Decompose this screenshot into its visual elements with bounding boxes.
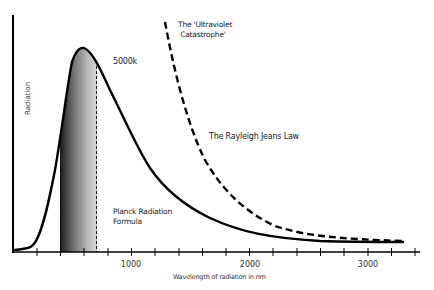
rayleigh-jeans-label: The Rayleigh Jeans Law [209,132,299,142]
y-axis-label: Radiation [24,82,32,115]
blackbody-radiation-chart [0,0,434,290]
planck-formula-label: Planck Radiation Formula [113,207,172,227]
x-tick-label-1000: 1000 [121,260,141,269]
x-tick-label-3000: 3000 [358,260,378,269]
visible-spectrum-band [60,40,97,252]
ultraviolet-catastrophe-label: The 'Ultraviolet Catastrophe' [178,20,232,40]
x-axis-label: Wavelength of radiation in nm [173,272,266,282]
temperature-label: 5000k [113,57,137,67]
x-tick-label-2000: 2000 [240,260,260,269]
